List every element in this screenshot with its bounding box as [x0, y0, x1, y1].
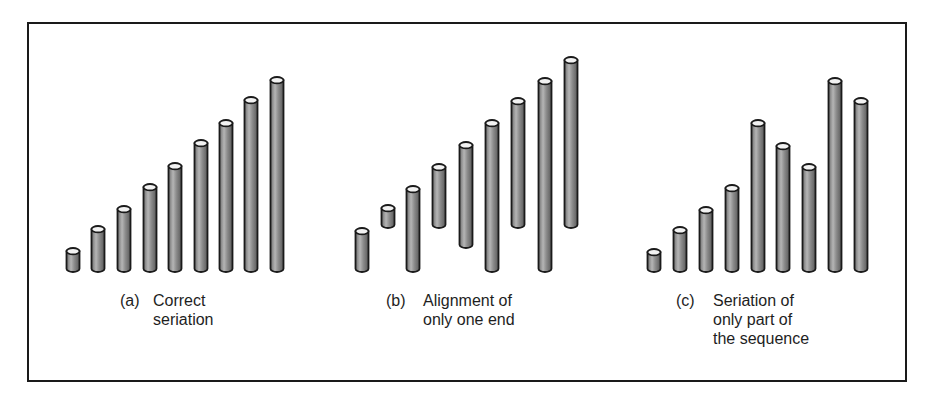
panel-a-rods: [67, 77, 284, 272]
caption-b-tag: (b): [386, 291, 406, 310]
rod: [565, 57, 578, 228]
rod: [648, 249, 661, 272]
rod: [67, 248, 80, 272]
rod: [92, 226, 105, 272]
rod: [460, 142, 473, 248]
rod: [674, 227, 687, 272]
panel-b-rods: [356, 57, 578, 272]
panel-c-rods: [648, 78, 868, 272]
rod: [803, 164, 816, 272]
rod: [855, 98, 868, 272]
caption-b-line-2: only one end: [423, 310, 515, 329]
rod: [433, 164, 446, 228]
rod: [512, 98, 525, 228]
caption-c-line-2: only part of: [713, 310, 792, 329]
rod: [539, 78, 552, 272]
rod: [220, 120, 233, 272]
rod: [382, 205, 395, 228]
rod: [245, 97, 258, 272]
rod: [829, 78, 842, 272]
rod: [700, 207, 713, 272]
rod: [407, 186, 420, 272]
rod: [195, 140, 208, 272]
rod: [752, 120, 765, 272]
caption-c-line-3: the sequence: [713, 329, 809, 348]
caption-a-tag: (a): [120, 291, 140, 310]
rod: [169, 163, 182, 272]
caption-c-line-1: Seriation of: [713, 291, 794, 310]
caption-a-line-1: Correct: [153, 291, 205, 310]
rod: [144, 184, 157, 272]
rod: [271, 77, 284, 272]
rod: [118, 206, 131, 272]
rod: [726, 185, 739, 272]
rod: [486, 120, 499, 272]
caption-a-line-2: seriation: [153, 310, 213, 329]
rod: [356, 228, 369, 272]
rod: [777, 143, 790, 272]
caption-b-line-1: Alignment of: [423, 291, 512, 310]
caption-c-tag: (c): [676, 291, 695, 310]
